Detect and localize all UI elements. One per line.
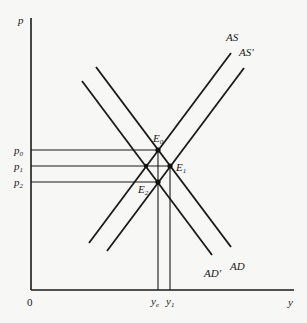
p0-label: p0 xyxy=(13,144,24,158)
as-prime-label: AS' xyxy=(238,46,254,58)
as-prime-curve xyxy=(107,68,244,251)
as-ad-diagram: p y 0 p0 p1 p2 ye y1 AS AS' AD AD' E0 E1… xyxy=(0,0,307,323)
ad-label: AD xyxy=(229,260,245,272)
as-label: AS xyxy=(225,31,239,43)
ad-prime-curve xyxy=(82,81,212,255)
x-axis-label: y xyxy=(287,296,293,308)
e2-label: E2 xyxy=(137,183,149,197)
e0-point xyxy=(155,147,160,152)
e0-label: E0 xyxy=(152,132,164,146)
origin-label: 0 xyxy=(27,296,33,308)
ad-curve xyxy=(96,67,231,247)
e1-point xyxy=(167,163,172,168)
as-curve xyxy=(89,53,231,243)
y-axis-label: p xyxy=(17,14,24,26)
y1-label: y1 xyxy=(165,295,174,309)
e2-point xyxy=(155,179,160,184)
e1-label: E1 xyxy=(175,161,186,175)
p1-label: p1 xyxy=(13,160,23,174)
intermediate-point xyxy=(144,164,148,168)
ye-label: ye xyxy=(150,295,159,309)
ad-prime-label: AD' xyxy=(203,267,222,279)
p2-label: p2 xyxy=(13,176,24,190)
